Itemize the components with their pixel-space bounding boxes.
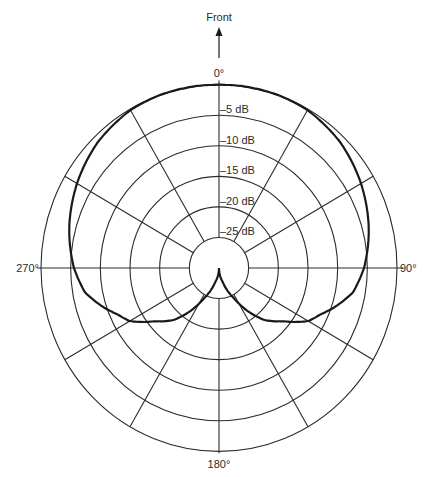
angle-label-90: 90° — [400, 262, 417, 274]
angle-label-270: 270° — [16, 262, 39, 274]
ring-label: –15 dB — [220, 164, 255, 176]
front-arrow-icon — [216, 27, 223, 58]
ring-label: –25 dB — [220, 225, 255, 237]
angle-label-0: 0° — [214, 67, 225, 79]
polar-pattern-diagram: Front –5 dB–10 dB–15 dB–20 dB–25 dB 0°90… — [0, 0, 428, 477]
ring-labels: –5 dB–10 dB–15 dB–20 dB–25 dB — [220, 103, 255, 237]
ring-label: –10 dB — [220, 134, 255, 146]
ring-label: –20 dB — [220, 195, 255, 207]
ring-label: –5 dB — [220, 103, 249, 115]
front-label: Front — [206, 11, 232, 23]
angle-label-180: 180° — [208, 458, 231, 470]
